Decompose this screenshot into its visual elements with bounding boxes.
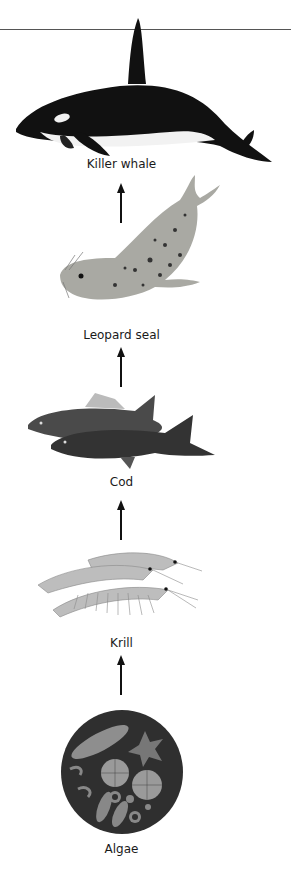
leopard-seal-illustration bbox=[55, 170, 225, 315]
krill-illustration bbox=[38, 545, 203, 625]
arrow-up-icon bbox=[114, 655, 128, 695]
algae-illustration bbox=[60, 709, 184, 835]
cod-illustration bbox=[25, 385, 220, 470]
label-cod: Cod bbox=[0, 475, 267, 489]
killer-whale-illustration bbox=[10, 14, 275, 164]
arrow-up-icon bbox=[114, 500, 128, 540]
label-killer-whale: Killer whale bbox=[0, 157, 267, 171]
arrow-up-icon bbox=[114, 347, 128, 387]
label-krill: Krill bbox=[0, 636, 267, 650]
label-leopard-seal: Leopard seal bbox=[0, 328, 267, 342]
label-algae: Algae bbox=[0, 842, 267, 856]
